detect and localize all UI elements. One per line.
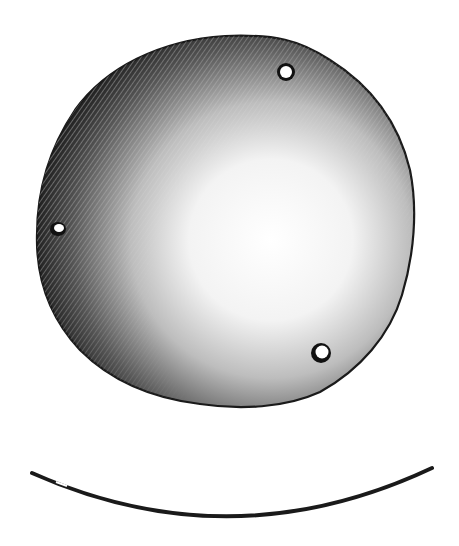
illustration (0, 0, 459, 546)
profile-section (32, 468, 432, 516)
disc (37, 36, 414, 407)
profile-arc (32, 468, 432, 516)
disc-texture (37, 36, 414, 407)
hole-bottom-right-opening (316, 346, 329, 359)
hole-left-opening (54, 224, 64, 232)
hole-top-right-opening (280, 66, 292, 78)
